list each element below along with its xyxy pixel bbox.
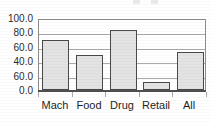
bar-chart-figure: 100.0 80.0 60.0 40.0 60.0 0.0 Mach Food …	[0, 0, 211, 122]
plot-area	[38, 19, 206, 91]
y-tick-label: 40.0	[14, 57, 33, 67]
bar	[143, 82, 170, 90]
x-axis: Mach Food Drug Retail All	[38, 99, 206, 115]
cropped-title-artifact	[133, 0, 140, 4]
bar	[110, 30, 137, 90]
y-tick-label: 60.0	[14, 72, 33, 82]
x-tick-label: All	[172, 99, 206, 112]
x-axis-line	[38, 90, 206, 92]
x-tick-label: Retail	[139, 99, 173, 112]
x-tick-mark	[105, 92, 106, 97]
x-tick-mark	[72, 92, 73, 97]
bar	[76, 55, 103, 90]
x-tick-label: Food	[72, 99, 106, 112]
x-tick-mark	[38, 92, 39, 97]
y-tick-label: 0.0	[19, 86, 33, 96]
y-tick-label: 60.0	[14, 43, 33, 53]
bar	[177, 52, 204, 90]
x-tick-mark	[139, 92, 140, 97]
x-tick-label: Drug	[105, 99, 139, 112]
bar-series	[39, 20, 205, 90]
y-tick-label: 80.0	[14, 28, 33, 38]
x-tick-mark	[172, 92, 173, 97]
y-axis: 100.0 80.0 60.0 40.0 60.0 0.0	[0, 14, 36, 91]
bar	[42, 40, 69, 90]
x-tick-mark	[206, 92, 207, 97]
y-tick-label: 100.0	[8, 14, 33, 24]
cropped-title-artifact	[151, 0, 158, 4]
x-tick-label: Mach	[38, 99, 72, 112]
